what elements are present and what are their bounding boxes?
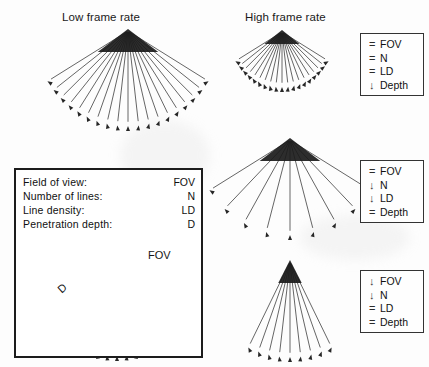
legend-row: = N bbox=[369, 52, 417, 66]
legend-row: ↓ FOV bbox=[369, 275, 417, 289]
depth-annotation-label: D bbox=[55, 281, 69, 295]
legend-row: ↓ N bbox=[369, 289, 417, 303]
legend-box-fewer-lines: = FOV ↓ N ↓ LD = Depth bbox=[360, 160, 424, 223]
definition-abbreviation: LD bbox=[182, 203, 195, 217]
legend-row: = FOV bbox=[369, 165, 417, 179]
fov-annotation-label: FOV bbox=[148, 249, 171, 261]
equals-icon: = bbox=[369, 38, 380, 52]
legend-box-shallow-depth: = FOV = N = LD ↓ Depth bbox=[360, 33, 424, 96]
definition-term: Penetration depth: bbox=[23, 217, 112, 231]
equals-icon: = bbox=[369, 52, 380, 66]
legend-row: = LD bbox=[369, 302, 417, 316]
arrow-down-icon: ↓ bbox=[369, 289, 380, 303]
legend-label: LD bbox=[380, 192, 393, 206]
legend-row: ↓ LD bbox=[369, 192, 417, 206]
equals-icon: = bbox=[369, 206, 380, 220]
arrow-down-icon: ↓ bbox=[369, 192, 380, 206]
legend-label: FOV bbox=[380, 38, 402, 52]
legend-label: N bbox=[380, 289, 388, 303]
legend-row: ↓ Depth bbox=[369, 79, 417, 93]
equals-icon: = bbox=[369, 65, 380, 79]
legend-box-narrow-fov: ↓ FOV ↓ N = LD = Depth bbox=[360, 270, 424, 333]
arrow-down-icon: ↓ bbox=[369, 179, 380, 193]
definition-row: Field of view: FOV bbox=[23, 175, 195, 189]
legend-row: ↓ N bbox=[369, 179, 417, 193]
definitions-panel: Field of view: FOV Number of lines: N Li… bbox=[14, 168, 203, 358]
high-frame-rate-fan-sparse bbox=[209, 138, 370, 240]
legend-row: = LD bbox=[369, 65, 417, 79]
legend-label: N bbox=[380, 179, 388, 193]
arrow-down-icon: ↓ bbox=[369, 79, 380, 93]
legend-row: = Depth bbox=[369, 316, 417, 330]
legend-label: Depth bbox=[380, 316, 408, 330]
legend-label: Depth bbox=[380, 206, 408, 220]
high-frame-rate-fan-shallow bbox=[235, 30, 328, 92]
definition-row: Line density: LD bbox=[23, 203, 195, 217]
arrow-down-icon: ↓ bbox=[369, 275, 380, 289]
equals-icon: = bbox=[369, 316, 380, 330]
definitions-list: Field of view: FOV Number of lines: N Li… bbox=[23, 175, 195, 231]
definition-term: Line density: bbox=[23, 203, 85, 217]
low-frame-rate-fan bbox=[47, 29, 208, 131]
definition-abbreviation: N bbox=[187, 189, 195, 203]
legend-label: LD bbox=[380, 302, 393, 316]
legend-label: N bbox=[380, 52, 388, 66]
legend-row: = Depth bbox=[369, 206, 417, 220]
legend-label: FOV bbox=[380, 165, 402, 179]
definition-row: Number of lines: N bbox=[23, 189, 195, 203]
definition-term: Number of lines: bbox=[23, 189, 103, 203]
legend-label: FOV bbox=[380, 275, 402, 289]
definition-term: Field of view: bbox=[23, 175, 87, 189]
equals-icon: = bbox=[369, 165, 380, 179]
legend-row: = FOV bbox=[369, 38, 417, 52]
high-frame-rate-fan-narrow bbox=[248, 260, 331, 362]
legend-label: Depth bbox=[380, 79, 408, 93]
definition-row: Penetration depth: D bbox=[23, 217, 195, 231]
legend-label: LD bbox=[380, 65, 393, 79]
definition-abbreviation: D bbox=[187, 217, 195, 231]
figure-canvas: Low frame rate High frame rate Field of … bbox=[0, 0, 429, 367]
definition-abbreviation: FOV bbox=[173, 175, 195, 189]
equals-icon: = bbox=[369, 302, 380, 316]
